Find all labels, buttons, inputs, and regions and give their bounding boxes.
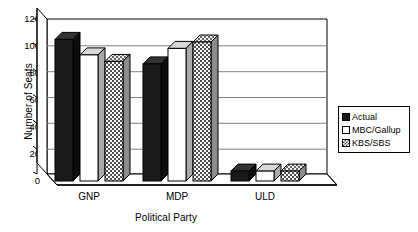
legend-swatch-actual-icon [342,113,350,121]
bar-gnp-mbc-gallup[interactable] [80,48,105,181]
legend-entry-actual[interactable]: Actual [342,110,406,123]
bar-mdp-mbc-gallup[interactable] [168,41,193,181]
y-axis-ticks [33,8,37,174]
legend-label-actual: Actual [352,112,377,122]
legend-label-kbs-sbs: KBS/SBS [352,138,391,148]
legend-swatch-kbs-sbs-icon [342,139,350,147]
legend-entry-kbs-sbs[interactable]: KBS/SBS [342,136,406,149]
x-tick-label-gnp: GNP [66,191,112,202]
bar-mdp-kbs-sbs[interactable] [193,35,218,181]
chart-legend: Actual MBC/Gallup KBS/SBS [338,106,410,153]
x-tick-label-uld: ULD [242,191,288,202]
bar-gnp-kbs-sbs[interactable] [105,54,130,181]
bar-gnp-actual[interactable] [55,32,80,181]
legend-label-mbc-gallup: MBC/Gallup [352,125,401,135]
bar-mdp-actual[interactable] [143,57,168,181]
x-axis-title: Political Party [36,212,296,223]
legend-entry-mbc-gallup[interactable]: MBC/Gallup [342,123,406,136]
bar-chart-figure: Number of Seats 120 100 80 60 40 20 0 [0,0,418,232]
legend-swatch-mbc-gallup-icon [342,126,350,134]
x-tick-label-mdp: MDP [154,191,200,202]
